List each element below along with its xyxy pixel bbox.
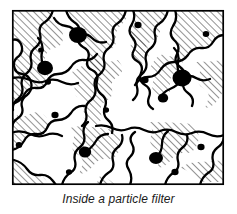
particle-filter-figure: Inside a particle filter	[0, 0, 237, 214]
particle-small-center	[141, 77, 148, 83]
particle-small-top-center	[134, 22, 141, 28]
particle-small-top-right	[203, 31, 210, 37]
particle-large-top	[69, 27, 87, 43]
particle-large-left	[37, 61, 53, 75]
particle-medium-bottom-center	[79, 146, 91, 157]
particle-small-left-low	[16, 142, 23, 148]
particle-small-right-low	[197, 144, 204, 150]
particle-large-right	[173, 70, 192, 87]
particle-filter-illustration	[0, 0, 237, 214]
particle-small-bottom-left	[66, 169, 72, 175]
particle-medium-center	[158, 93, 168, 102]
particle-small-bottom-mid	[171, 169, 178, 175]
particle-small-mid-left	[51, 112, 58, 118]
particle-small-mid-center	[103, 107, 109, 113]
particle-small-left-upper	[45, 79, 51, 85]
particle-medium-bottom-right	[149, 152, 163, 164]
particle-small-upper-left	[38, 47, 44, 52]
figure-caption: Inside a particle filter	[0, 192, 237, 206]
